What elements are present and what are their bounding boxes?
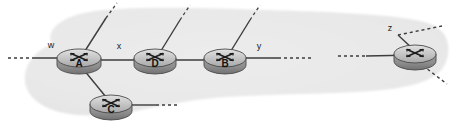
router-c[interactable]: C bbox=[90, 95, 132, 120]
router-a[interactable]: A bbox=[57, 49, 101, 74]
router-z-node-top bbox=[394, 45, 436, 63]
label-z: z bbox=[388, 23, 393, 33]
router-b-label: B bbox=[221, 58, 228, 69]
router-z-node[interactable] bbox=[394, 45, 436, 70]
network-diagram: ADBC wxyz bbox=[0, 0, 457, 127]
router-a-label: A bbox=[75, 58, 82, 69]
router-d[interactable]: D bbox=[134, 49, 176, 74]
diagram-canvas: ADBC wxyz bbox=[0, 0, 457, 127]
label-y: y bbox=[257, 41, 262, 51]
router-b[interactable]: B bbox=[204, 49, 246, 74]
label-x: x bbox=[117, 41, 122, 51]
label-w: w bbox=[47, 40, 55, 50]
router-c-label: C bbox=[107, 104, 114, 115]
router-d-label: D bbox=[151, 58, 158, 69]
